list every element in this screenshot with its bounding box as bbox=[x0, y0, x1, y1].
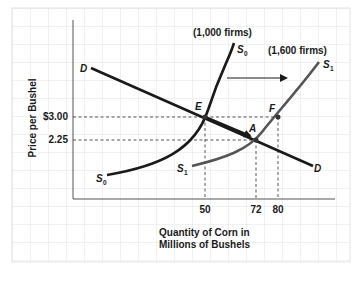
svg-text:S: S bbox=[323, 59, 330, 70]
svg-text:1: 1 bbox=[330, 65, 334, 72]
label-s0-firms: (1,000 firms) bbox=[193, 27, 252, 38]
xtick-80: 80 bbox=[272, 204, 284, 215]
y-axis-label: Price per Bushel bbox=[27, 78, 38, 157]
point-e bbox=[203, 115, 208, 120]
point-a bbox=[254, 138, 259, 143]
svg-text:S: S bbox=[96, 173, 103, 184]
svg-text:S: S bbox=[177, 163, 184, 174]
ytick-300: $3.00 bbox=[43, 111, 68, 122]
label-a: A bbox=[248, 123, 256, 134]
svg-text:1: 1 bbox=[184, 169, 188, 176]
label-d-top: D bbox=[80, 63, 87, 74]
xtick-72: 72 bbox=[250, 204, 262, 215]
x-axis-label-line1: Quantity of Corn in bbox=[159, 227, 250, 238]
label-f: F bbox=[269, 103, 276, 114]
svg-text:0: 0 bbox=[244, 50, 248, 57]
svg-text:0: 0 bbox=[103, 179, 107, 186]
ytick-225: 2.25 bbox=[49, 134, 69, 145]
xtick-50: 50 bbox=[199, 204, 211, 215]
label-s1-firms: (1,600 firms) bbox=[268, 45, 327, 56]
x-axis-label-line2: Millions of Bushels bbox=[159, 239, 251, 250]
svg-text:S: S bbox=[237, 44, 244, 55]
supply-demand-chart: E A F D D (1,000 firms) (1,600 firms) S … bbox=[0, 0, 364, 281]
label-d-bottom: D bbox=[314, 163, 321, 174]
label-e: E bbox=[195, 101, 202, 112]
point-f bbox=[276, 115, 281, 120]
